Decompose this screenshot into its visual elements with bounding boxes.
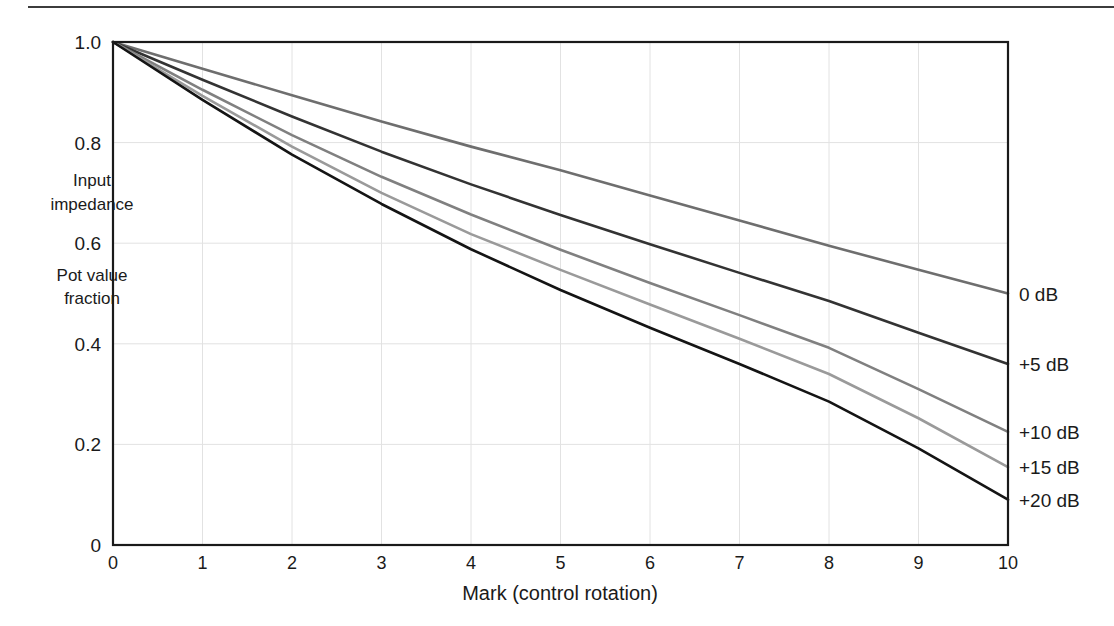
series-label-2: +10 dB (1019, 422, 1080, 443)
x-tick-label: 6 (645, 553, 655, 573)
y-axis-note: Pot value (57, 266, 128, 285)
y-axis-note: Input (73, 171, 111, 190)
y-tick-label: 0.6 (75, 233, 101, 254)
y-tick-label: 0 (90, 535, 101, 556)
y-axis-note: fraction (64, 289, 120, 308)
line-chart-figure: 00.20.40.60.81.0 012345678910 Inputimped… (0, 0, 1114, 626)
x-axis-tick-labels: 012345678910 (108, 553, 1018, 573)
series-label-1: +5 dB (1019, 354, 1069, 375)
y-tick-label: 0.8 (75, 133, 101, 154)
x-tick-label: 2 (287, 553, 297, 573)
x-tick-label: 1 (197, 553, 207, 573)
series-label-4: +20 dB (1019, 490, 1080, 511)
series-label-3: +15 dB (1019, 457, 1080, 478)
x-tick-label: 10 (998, 553, 1018, 573)
x-tick-label: 5 (555, 553, 565, 573)
y-tick-label: 0.2 (75, 434, 101, 455)
x-tick-label: 9 (913, 553, 923, 573)
y-axis-note: impedance (50, 195, 133, 214)
y-tick-label: 0.4 (75, 334, 102, 355)
x-tick-label: 8 (824, 553, 834, 573)
x-tick-label: 0 (108, 553, 118, 573)
series-labels-group: 0 dB+5 dB+10 dB+15 dB+20 dB (1019, 284, 1080, 511)
x-tick-label: 7 (734, 553, 744, 573)
x-axis-title: Mark (control rotation) (462, 582, 658, 604)
x-tick-label: 4 (466, 553, 476, 573)
y-tick-label: 1.0 (75, 32, 101, 53)
x-tick-label: 3 (376, 553, 386, 573)
series-label-0: 0 dB (1019, 284, 1058, 305)
gridlines-group (113, 42, 1008, 545)
figure-page: 00.20.40.60.81.0 012345678910 Inputimped… (0, 0, 1114, 626)
chart-canvas: 00.20.40.60.81.0 012345678910 Inputimped… (0, 0, 1114, 626)
